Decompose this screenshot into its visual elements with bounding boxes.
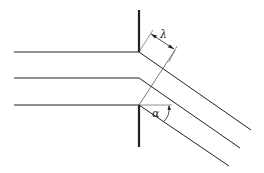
wavefront-line [139, 50, 175, 105]
alpha-arrow-icon [168, 105, 172, 110]
lambda-label: λ [159, 28, 167, 41]
lambda-arrow-left-icon [151, 34, 157, 39]
lambda-arrow-right-icon [168, 45, 174, 50]
alpha-label: α [152, 107, 160, 120]
lambda-extension-left [139, 30, 153, 52]
refraction-diagram: λ α [0, 0, 264, 173]
diagram-canvas: λ α [0, 0, 264, 173]
